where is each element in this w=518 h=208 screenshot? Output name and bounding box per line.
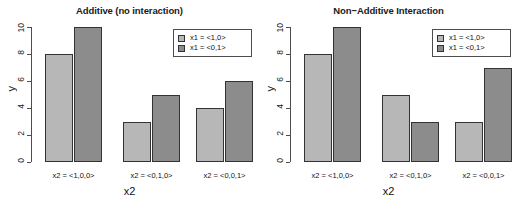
legend-swatch-icon [178, 45, 185, 52]
x-axis-category-label: x2 = <1,0,0> [34, 172, 114, 180]
legend-label: x1 = <0,1> [190, 44, 226, 52]
legend-item: x1 = <0,1> [437, 43, 505, 53]
y-axis-tick [286, 27, 290, 28]
bar [196, 108, 224, 162]
y-axis-tick [286, 135, 290, 136]
x-axis-category-label: x2 = <0,0,1> [444, 172, 518, 180]
bar [382, 95, 410, 163]
legend-item: x1 = <1,0> [178, 33, 246, 43]
bar [455, 122, 483, 163]
y-axis-tick [27, 135, 31, 136]
chart-panel-nonadditive: Non−Additive Interaction y 0246810 x2 = … [259, 0, 518, 208]
bar [333, 27, 361, 162]
chart-panel-additive: Additive (no interaction) y 0246810 x2 =… [0, 0, 259, 208]
x-axis-category-label: x2 = <0,1,0> [112, 172, 192, 180]
bar [152, 95, 180, 163]
legend-swatch-icon [178, 35, 185, 42]
x-axis-label: x2 [259, 186, 518, 197]
y-axis-line [290, 27, 291, 162]
bar [45, 54, 73, 162]
chart-title: Additive (no interaction) [0, 5, 259, 16]
y-axis-tick [286, 108, 290, 109]
chart-title: Non−Additive Interaction [259, 5, 518, 16]
x-axis-category-label: x2 = <0,1,0> [371, 172, 451, 180]
y-axis-tick [27, 27, 31, 28]
y-axis-label: y [265, 86, 276, 92]
y-axis-tick [27, 54, 31, 55]
y-axis-tick [286, 162, 290, 163]
y-axis-label: y [6, 86, 17, 92]
legend-item: x1 = <0,1> [178, 43, 246, 53]
y-axis-tick [286, 54, 290, 55]
figure: Additive (no interaction) y 0246810 x2 =… [0, 0, 518, 208]
legend-label: x1 = <0,1> [449, 44, 485, 52]
bar [304, 54, 332, 162]
legend-right: x1 = <1,0>x1 = <0,1> [432, 29, 511, 57]
y-axis-line [31, 27, 32, 162]
legend-label: x1 = <1,0> [190, 34, 226, 42]
bar [74, 27, 102, 162]
legend-left: x1 = <1,0>x1 = <0,1> [173, 29, 252, 57]
x-axis-category-label: x2 = <0,0,1> [185, 172, 265, 180]
x-axis-category-label: x2 = <1,0,0> [293, 172, 373, 180]
legend-swatch-icon [437, 35, 444, 42]
bar [225, 81, 253, 162]
y-axis-tick [27, 81, 31, 82]
x-axis-label: x2 [0, 186, 259, 197]
legend-swatch-icon [437, 45, 444, 52]
legend-item: x1 = <1,0> [437, 33, 505, 43]
legend-label: x1 = <1,0> [449, 34, 485, 42]
y-axis-tick [286, 81, 290, 82]
bar [411, 122, 439, 163]
y-axis-tick [27, 162, 31, 163]
bar [484, 68, 512, 163]
y-axis-tick [27, 108, 31, 109]
bar [123, 122, 151, 163]
